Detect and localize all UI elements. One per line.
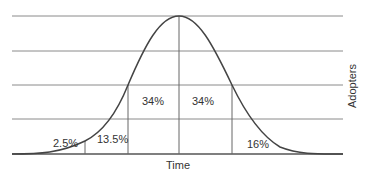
segment-label-laggards: 16% xyxy=(247,139,269,150)
segment-label-early-majority: 34% xyxy=(142,96,164,107)
gridlines xyxy=(12,16,343,119)
segment-label-late-majority: 34% xyxy=(192,96,214,107)
x-axis-label: Time xyxy=(166,160,190,171)
y-axis-label: Adopters xyxy=(346,64,358,108)
segment-label-early-adopters: 13.5% xyxy=(97,134,128,145)
bell-curve-diagram xyxy=(0,0,366,179)
segment-label-innovators: 2.5% xyxy=(53,138,78,149)
